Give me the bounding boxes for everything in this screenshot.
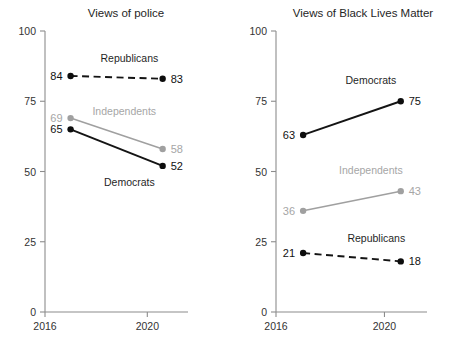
x-tick-label-2016: 2016 [264,320,288,332]
y-tick-label-25: 25 [24,236,36,248]
value-label-independents-start: 36 [283,205,295,217]
chart-title: Views of Black Lives Matter [293,7,434,19]
chart-svg-views-of-police: Views of police0255075100201620208483Rep… [0,0,233,345]
x-tick-label-2020: 2020 [136,320,160,332]
data-point-republicans-start [300,250,306,256]
data-point-democrats-start [67,126,73,132]
data-point-independents-start [67,115,73,121]
figure-container: Views of police0255075100201620208483Rep… [0,0,466,345]
data-point-republicans-end [398,258,404,264]
series-label-republicans: Republicans [347,232,405,244]
data-point-democrats-end [398,98,404,104]
value-label-republicans-end: 83 [171,73,183,85]
value-label-independents-end: 43 [409,185,421,197]
value-label-democrats-end: 52 [171,160,183,172]
y-tick-label-75: 75 [255,95,267,107]
y-tick-label-100: 100 [18,25,36,37]
chart-panel-views-of-black-lives-matter: Views of Black Lives Matter0255075100201… [233,0,466,345]
series-line-independents [71,118,163,149]
series-label-democrats: Democrats [346,74,397,86]
y-tick-label-100: 100 [249,25,267,37]
series-label-democrats: Democrats [104,176,155,188]
y-tick-label-50: 50 [24,166,36,178]
value-label-republicans-end: 18 [409,255,421,267]
y-tick-label-25: 25 [255,236,267,248]
value-label-democrats-start: 65 [50,123,62,135]
data-point-independents-start [300,208,306,214]
series-line-democrats [303,101,401,135]
y-tick-label-50: 50 [255,166,267,178]
value-label-democrats-end: 75 [409,95,421,107]
chart-panel-views-of-police: Views of police0255075100201620208483Rep… [0,0,233,345]
series-line-democrats [71,129,163,166]
data-point-republicans-start [67,73,73,79]
chart-svg-views-of-black-lives-matter: Views of Black Lives Matter0255075100201… [233,0,466,345]
y-tick-label-0: 0 [261,306,267,318]
series-label-independents: Independents [339,164,403,176]
data-point-independents-end [398,188,404,194]
value-label-republicans-start: 21 [283,247,295,259]
chart-title: Views of police [88,7,165,19]
x-tick-label-2020: 2020 [373,320,397,332]
series-line-republicans [303,253,401,261]
series-label-republicans: Republicans [101,52,159,64]
value-label-democrats-start: 63 [283,129,295,141]
value-label-independents-end: 58 [171,143,183,155]
y-tick-label-75: 75 [24,95,36,107]
data-point-democrats-start [300,132,306,138]
x-tick-label-2016: 2016 [33,320,57,332]
value-label-independents-start: 69 [50,112,62,124]
series-label-independents: Independents [92,105,156,117]
y-tick-label-0: 0 [30,306,36,318]
series-line-republicans [71,76,163,79]
data-point-republicans-end [159,76,165,82]
series-line-independents [303,191,401,211]
data-point-independents-end [159,146,165,152]
data-point-democrats-end [159,163,165,169]
value-label-republicans-start: 84 [50,70,62,82]
